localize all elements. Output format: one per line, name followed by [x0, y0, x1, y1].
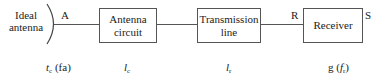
receiver-block: Receiver [303, 8, 363, 43]
ideal-antenna-label: Ideal antenna [4, 9, 48, 33]
transmission-line-block: Transmission line [197, 8, 261, 43]
connector-circuit-to-line [156, 24, 197, 25]
ideal-antenna-line2: antenna [4, 21, 48, 33]
antenna-circuit-line2: circuit [109, 26, 146, 39]
connector-line-to-receiver [260, 24, 303, 25]
antenna-circuit-block: Antenna circuit [99, 8, 157, 43]
param-line-loss: lr [226, 61, 231, 75]
antenna-circuit-line1: Antenna [109, 13, 146, 26]
receiver-label: Receiver [313, 19, 352, 32]
param-circuit-loss: lc [124, 61, 130, 75]
ideal-antenna-line1: Ideal [4, 9, 48, 21]
param-receiver-noise: g (fr) [328, 61, 349, 75]
point-s-label: S [365, 9, 371, 21]
point-a-label: A [61, 9, 69, 21]
transmission-line-line2: line [200, 26, 259, 39]
connector-a-to-antenna-circuit [54, 24, 99, 25]
param-antenna-temperature: tc (fa) [46, 61, 71, 75]
transmission-line-line1: Transmission [200, 13, 259, 26]
point-r-label: R [291, 9, 298, 21]
